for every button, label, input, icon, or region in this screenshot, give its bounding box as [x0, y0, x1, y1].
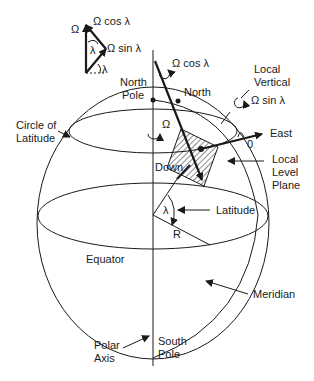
lambda-center-label: λ [163, 204, 169, 216]
local-level-plane [167, 129, 218, 186]
local-level-plane-label: Local [272, 153, 298, 165]
latitude-label: Latitude [216, 204, 255, 216]
local-vertical-label: Local [254, 63, 280, 75]
down-label: Down [155, 161, 183, 173]
svg-text:Vertical: Vertical [254, 76, 290, 88]
omega-sin-label: Ω sin λ [107, 42, 141, 54]
equator-label: Equator [86, 253, 125, 265]
meridian-label: Meridian [253, 288, 295, 300]
lambda-triangle-1: λ [90, 44, 96, 56]
svg-text:Plane: Plane [272, 179, 300, 191]
svg-text:Pole: Pole [158, 348, 180, 360]
svg-text:Axis: Axis [94, 352, 115, 364]
omega-cos-label: Ω cos λ [93, 15, 130, 27]
svg-text:Level: Level [272, 166, 298, 178]
earth-frame-diagram: Ω cos λ Ω Ω sin λ λ λ North Pole Circle … [0, 0, 314, 381]
omega-cos-axis-label: Ω cos λ [172, 57, 209, 69]
east-label: East [270, 127, 292, 139]
north-pole-label: North [120, 76, 147, 88]
circle-of-latitude-label: Circle of [16, 119, 57, 131]
svg-text:Pole: Pole [122, 89, 144, 101]
omega-label: Ω [71, 23, 79, 35]
omega-axis-label: Ω [162, 118, 170, 130]
svg-text:Latitude: Latitude [16, 132, 55, 144]
zero-label: 0 [247, 138, 253, 150]
south-pole-label: South [158, 335, 187, 347]
north-label: North [184, 86, 211, 98]
radius-line [153, 215, 210, 245]
radius-label: R [173, 228, 181, 240]
north-pole-dot [151, 98, 156, 103]
omega-sin-vertical-label: Ω sin λ [251, 94, 285, 106]
polar-axis-label: Polar [94, 339, 120, 351]
lambda-triangle-2: λ [102, 63, 108, 75]
